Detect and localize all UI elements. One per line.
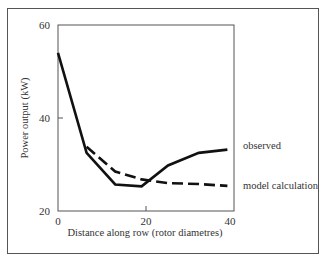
legend-model-calculation: model calculation xyxy=(243,180,319,191)
chart: 60 40 20 0 20 40 Distance along row (rot… xyxy=(0,0,327,260)
y-tick-label-60: 60 xyxy=(39,19,51,31)
y-tick-label-40: 40 xyxy=(39,112,51,124)
x-tick-label-0: 0 xyxy=(55,215,61,227)
series-line-observed xyxy=(58,53,227,186)
x-tick-label-40: 40 xyxy=(225,215,237,227)
x-axis-label: Distance along row (rotor diametres) xyxy=(67,227,223,239)
x-tick-label-20: 20 xyxy=(141,215,153,227)
y-tick-label-20: 20 xyxy=(39,205,51,217)
legend-observed: observed xyxy=(243,140,282,151)
y-axis-label: Power output (kW) xyxy=(19,77,31,159)
